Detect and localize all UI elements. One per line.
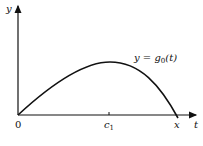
- x-axis-label: t: [194, 119, 199, 130]
- curve-g0: [18, 62, 178, 118]
- diagram: y t 0 c1 x y = g0(t): [0, 0, 203, 146]
- c1-label: c1: [104, 119, 114, 132]
- curve-label: y = g0(t): [133, 52, 177, 65]
- y-axis-label: y: [5, 3, 12, 14]
- origin-label: 0: [15, 119, 21, 130]
- root-x-label: x: [174, 119, 180, 130]
